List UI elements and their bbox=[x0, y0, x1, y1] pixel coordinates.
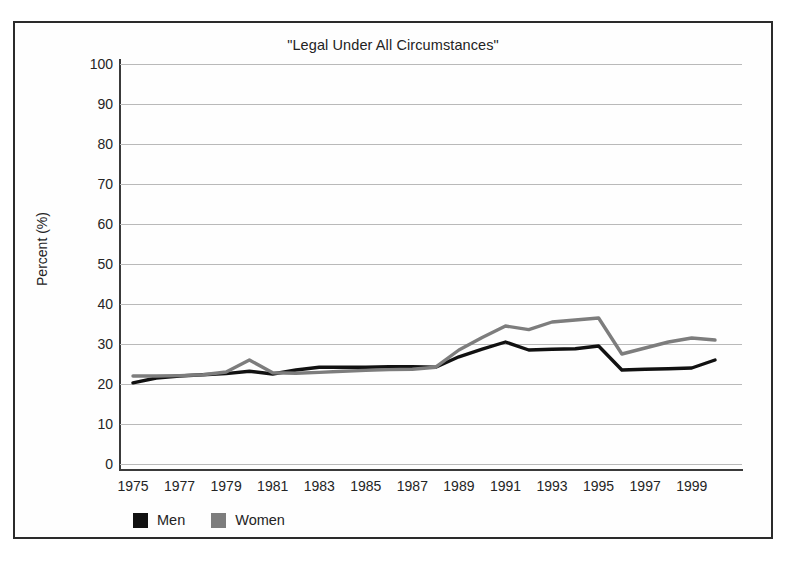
x-tick-label: 1977 bbox=[164, 478, 195, 494]
x-tick-label: 1987 bbox=[397, 478, 428, 494]
x-tick-label: 1979 bbox=[211, 478, 242, 494]
legend-label: Men bbox=[157, 512, 185, 528]
x-tick-label: 1983 bbox=[304, 478, 335, 494]
legend-swatch-icon bbox=[211, 513, 226, 528]
y-tick-label: 60 bbox=[69, 216, 113, 232]
series-line-men bbox=[133, 342, 715, 383]
x-axis-tick-labels: 1975197719791981198319851987198919911993… bbox=[120, 478, 742, 500]
y-tick-label: 40 bbox=[69, 296, 113, 312]
x-tick-label: 1995 bbox=[583, 478, 614, 494]
series-line-women bbox=[133, 318, 715, 376]
y-tick-label: 80 bbox=[69, 136, 113, 152]
legend-label: Women bbox=[235, 512, 285, 528]
y-tick-label: 10 bbox=[69, 416, 113, 432]
legend-swatch-icon bbox=[133, 513, 148, 528]
y-axis-tick-labels: 0102030405060708090100 bbox=[57, 64, 113, 464]
x-tick-label: 1999 bbox=[676, 478, 707, 494]
legend-entry-women: Women bbox=[211, 512, 285, 528]
y-tick-label: 90 bbox=[69, 96, 113, 112]
x-tick-label: 1993 bbox=[536, 478, 567, 494]
series-lines bbox=[120, 64, 742, 464]
x-tick-label: 1981 bbox=[257, 478, 288, 494]
x-tick-label: 1985 bbox=[350, 478, 381, 494]
x-tick-label: 1989 bbox=[443, 478, 474, 494]
y-axis-title: Percent (%) bbox=[34, 159, 50, 339]
y-tick-label: 30 bbox=[69, 336, 113, 352]
x-tick-label: 1975 bbox=[117, 478, 148, 494]
chart-figure-frame: "Legal Under All Circumstances" Percent … bbox=[13, 21, 773, 539]
gridline bbox=[120, 464, 742, 465]
y-tick-label: 70 bbox=[69, 176, 113, 192]
y-tick-label: 20 bbox=[69, 376, 113, 392]
x-axis-line bbox=[119, 469, 743, 471]
chart-title: "Legal Under All Circumstances" bbox=[15, 37, 771, 53]
y-tick-label: 100 bbox=[69, 56, 113, 72]
x-tick-label: 1997 bbox=[630, 478, 661, 494]
x-tick-label: 1991 bbox=[490, 478, 521, 494]
plot-area bbox=[120, 64, 742, 464]
chart-legend: MenWomen bbox=[133, 512, 285, 528]
y-tick-label: 50 bbox=[69, 256, 113, 272]
y-tick-label: 0 bbox=[69, 456, 113, 472]
legend-entry-men: Men bbox=[133, 512, 185, 528]
